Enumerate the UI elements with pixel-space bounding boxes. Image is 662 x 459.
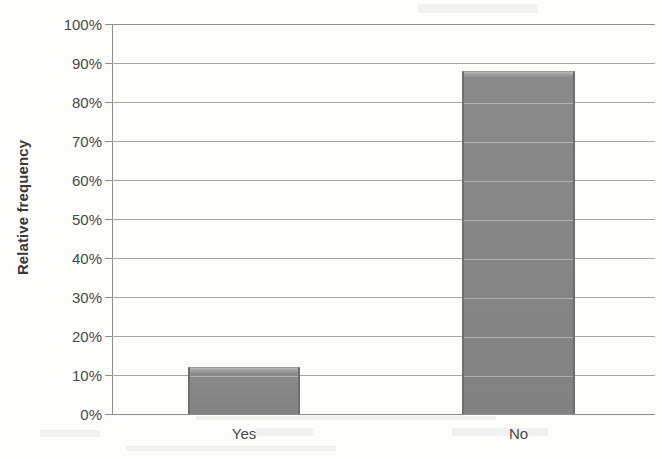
x-tick-label-yes: Yes — [188, 425, 300, 442]
y-tick-label: 60% — [46, 172, 102, 189]
gridline — [112, 24, 655, 25]
y-tick-label: 90% — [46, 55, 102, 72]
y-tick-label: 10% — [46, 367, 102, 384]
y-tick-label: 30% — [46, 289, 102, 306]
bar-no[interactable] — [462, 71, 575, 414]
plot-area — [112, 24, 655, 414]
scan-artifact — [126, 446, 336, 451]
bar-gridline — [464, 259, 573, 260]
y-tick-label: 20% — [46, 328, 102, 345]
bar-gridline — [464, 376, 573, 377]
y-axis-tick-mark — [105, 297, 112, 298]
bar-gridline — [464, 220, 573, 221]
scan-artifact — [418, 4, 538, 13]
y-axis-title-text: Relative frequency — [15, 139, 32, 274]
y-axis-tick-mark — [105, 375, 112, 376]
y-axis-tick-mark — [105, 414, 112, 415]
bar-gridline — [464, 142, 573, 143]
y-axis-tick-mark — [105, 102, 112, 103]
y-tick-label: 40% — [46, 250, 102, 267]
bar-gridline — [464, 181, 573, 182]
bar-gridline — [190, 376, 298, 377]
y-axis-tick-mark — [105, 24, 112, 25]
y-axis-tick-mark — [105, 180, 112, 181]
y-tick-label: 50% — [46, 211, 102, 228]
y-tick-label: 0% — [46, 406, 102, 423]
y-tick-label: 70% — [46, 133, 102, 150]
x-axis-line — [112, 414, 655, 415]
scan-artifact — [196, 416, 496, 420]
y-axis-tick-mark — [105, 336, 112, 337]
y-axis-tick-mark — [105, 63, 112, 64]
bar-chart-figure: Relative frequency 100% 90% 80% 70% 60% … — [0, 0, 662, 459]
y-axis-tick-mark — [105, 141, 112, 142]
y-axis-tick-labels: 100% 90% 80% 70% 60% 50% 40% 30% 20% 10%… — [40, 0, 102, 459]
bar-gridline — [464, 298, 573, 299]
bar-yes[interactable] — [188, 367, 300, 414]
y-tick-label: 80% — [46, 94, 102, 111]
y-axis-title: Relative frequency — [8, 0, 38, 414]
bar-gridline — [464, 103, 573, 104]
y-tick-label: 100% — [46, 16, 102, 33]
bar-gridline — [464, 337, 573, 338]
x-tick-label-no: No — [462, 425, 575, 442]
gridline — [112, 63, 655, 64]
y-axis-tick-mark — [105, 219, 112, 220]
y-axis-tick-mark — [105, 258, 112, 259]
